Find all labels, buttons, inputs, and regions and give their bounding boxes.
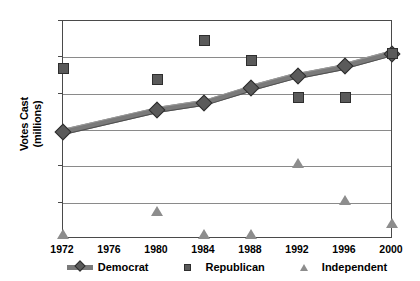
democrat-line-segment — [203, 85, 252, 105]
democrat-line-segment — [250, 73, 299, 92]
x-tick-label: 1996 — [321, 243, 367, 255]
independent-legend-marker-icon-glyph — [300, 264, 308, 271]
x-tick-label: 1992 — [274, 243, 320, 255]
y-axis-title-line-1: Votes Cast — [18, 97, 31, 151]
y-axis-title: Votes Cast (millions) — [14, 44, 48, 204]
gridline — [63, 57, 391, 58]
legend-label: Democrat — [98, 261, 149, 273]
democrat-line-segment — [157, 100, 205, 113]
x-tick-label: 1980 — [133, 243, 179, 255]
republican-legend-marker-icon-glyph — [184, 264, 191, 271]
x-tick-label: 1988 — [227, 243, 273, 255]
independent-data-point — [151, 206, 163, 216]
independent-data-point — [198, 229, 210, 239]
republican-data-point — [152, 74, 163, 85]
legend-item-republican[interactable]: Republican — [175, 261, 265, 273]
y-axis-title-line-2: (millions) — [31, 101, 44, 148]
gridline — [63, 166, 391, 167]
votes-cast-chart: Votes Cast (millions) 6050403020100 1972… — [0, 0, 420, 281]
plot-area — [62, 20, 392, 238]
legend-item-democrat[interactable]: Democrat — [67, 261, 149, 273]
legend-label: Republican — [206, 261, 265, 273]
legend-label: Independent — [322, 261, 387, 273]
republican-data-point — [199, 35, 210, 46]
democrat-line-segment — [297, 63, 345, 78]
gridline — [63, 203, 391, 204]
republican-data-point — [58, 63, 69, 74]
x-tick-label: 1976 — [86, 243, 132, 255]
independent-data-point — [386, 218, 398, 228]
democrat-legend-marker-icon-glyph — [67, 265, 93, 270]
independent-legend-marker-icon — [291, 261, 317, 273]
legend-item-independent[interactable]: Independent — [291, 261, 387, 273]
chart-legend: DemocratRepublicanIndependent — [62, 258, 392, 276]
y-tick-mark — [58, 238, 62, 239]
independent-data-point — [245, 229, 257, 239]
republican-legend-marker-icon — [175, 261, 201, 273]
x-tick-label: 1984 — [180, 243, 226, 255]
democrat-legend-marker-icon — [67, 261, 93, 273]
gridline — [63, 130, 391, 131]
democrat-line-segment — [344, 51, 393, 70]
x-tick-label: 1972 — [39, 243, 85, 255]
x-tick-label: 2000 — [368, 243, 414, 255]
